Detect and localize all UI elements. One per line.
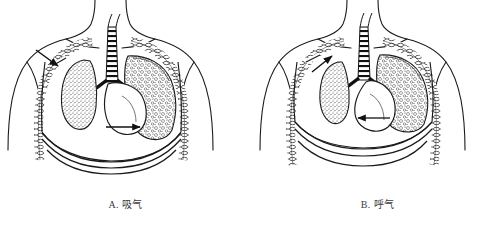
panel-exhalation: B. 呼气	[252, 0, 503, 225]
pneumothorax-figure: A. 吸气	[0, 0, 503, 225]
trachea	[358, 13, 372, 80]
panel-inhalation: A. 吸气	[0, 0, 251, 225]
panel-b-illustration	[252, 0, 503, 195]
panel-a-illustration	[0, 0, 251, 195]
panel-a-caption: A. 吸气	[0, 196, 251, 211]
panel-b-caption: B. 呼气	[252, 196, 503, 211]
lung-collapsed	[62, 60, 97, 129]
lung-collapsed	[320, 62, 349, 124]
trachea	[106, 14, 120, 82]
